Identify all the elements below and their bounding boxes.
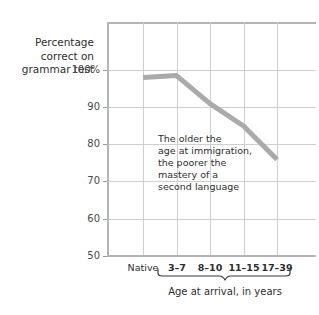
annotation-line-5: second language: [158, 181, 268, 193]
annotation-line-3: the poorer the: [158, 157, 268, 169]
x-axis-group-brace: [155, 267, 295, 283]
chart-annotation: The older the age at immigration, the po…: [158, 133, 268, 193]
annotation-line-2: age at immigration,: [158, 145, 268, 157]
annotation-line-1: The older the: [158, 133, 268, 145]
x-axis-caption: Age at arrival, in years: [150, 286, 300, 297]
annotation-line-4: mastery of a: [158, 169, 268, 181]
